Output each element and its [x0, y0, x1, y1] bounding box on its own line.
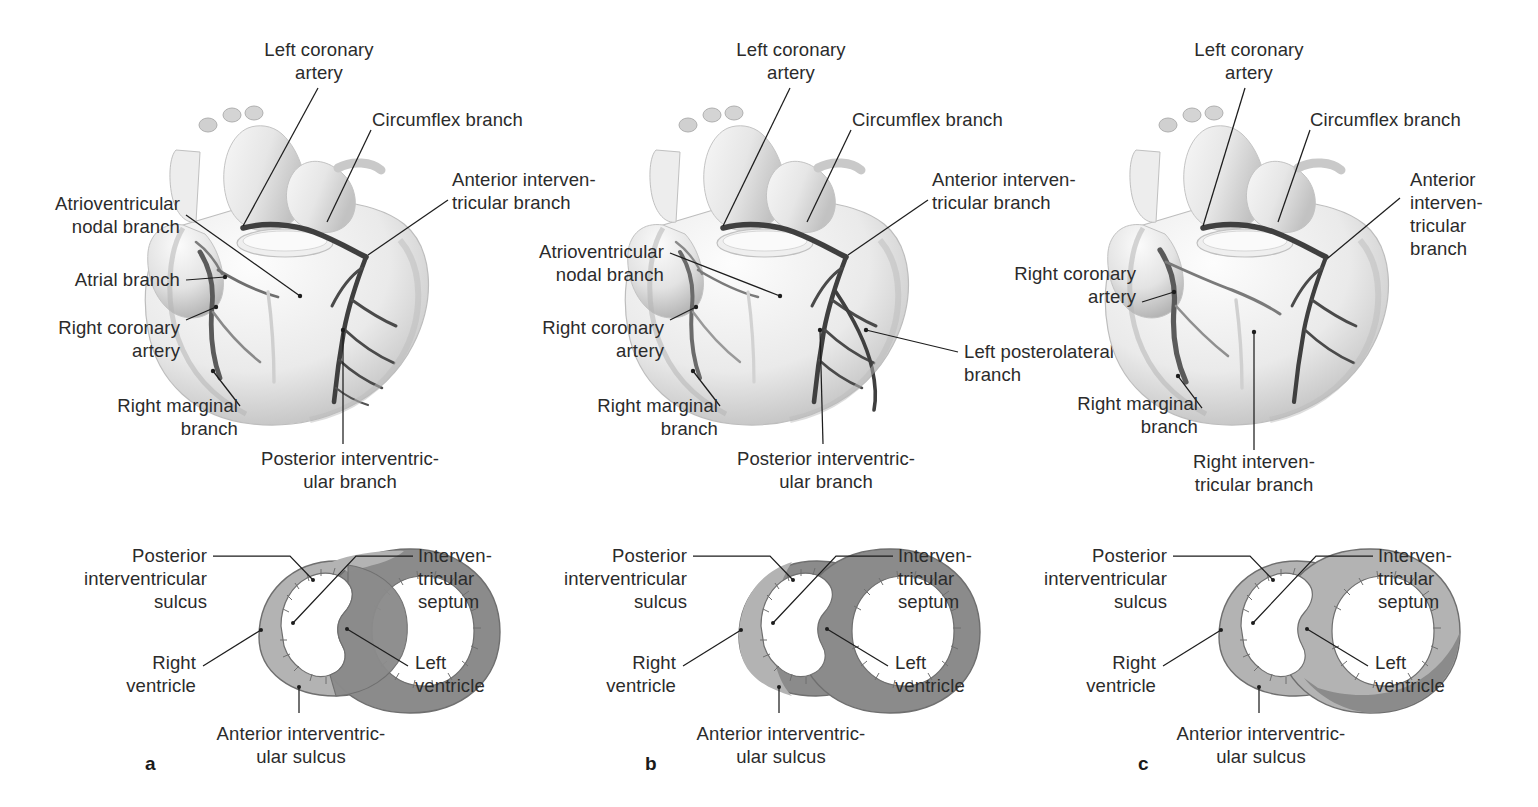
- heart-illustration-b: [625, 106, 908, 425]
- label-posterior-interventricular-sulcus: Posterior interventricular sulcus: [480, 544, 687, 613]
- label-anterior-interventricular-sulcus: Anterior interventric- ular sulcus: [676, 722, 886, 768]
- label-left-ventricle: Left ventricle: [1375, 651, 1505, 697]
- label-right-marginal-branch: Right marginal branch: [510, 394, 718, 440]
- label-right-ventricle: Right ventricle: [990, 651, 1156, 697]
- panel-letter-c: c: [1138, 753, 1149, 775]
- label-posterior-interventricular-sulcus: Posterior interventricular sulcus: [960, 544, 1167, 613]
- label-left-coronary-artery: Left coronary artery: [1178, 38, 1320, 84]
- label-posterior-interventricular-branch: Posterior interventric- ular branch: [720, 447, 932, 493]
- label-right-ventricle: Right ventricle: [510, 651, 676, 697]
- panel-a: Left coronary artery Circumflex branch A…: [0, 0, 512, 807]
- panel-letter-b: b: [645, 753, 657, 775]
- label-atrioventricular-nodal-branch: Atrioventricular nodal branch: [480, 240, 664, 286]
- label-right-coronary-artery: Right coronary artery: [0, 316, 180, 362]
- label-anterior-interventricular-sulcus: Anterior interventric- ular sulcus: [196, 722, 406, 768]
- label-right-marginal-branch: Right marginal branch: [990, 392, 1198, 438]
- heart-illustration-c: [1105, 106, 1388, 425]
- label-circumflex-branch: Circumflex branch: [1310, 108, 1500, 131]
- label-right-ventricle: Right ventricle: [30, 651, 196, 697]
- label-atrial-branch: Atrial branch: [0, 268, 180, 291]
- panel-b: Left coronary artery Circumflex branch A…: [480, 0, 992, 807]
- label-anterior-interventricular-sulcus: Anterior interventric- ular sulcus: [1156, 722, 1366, 768]
- label-left-coronary-artery: Left coronary artery: [248, 38, 390, 84]
- figure-canvas: Left coronary artery Circumflex branch A…: [0, 0, 1538, 807]
- label-right-coronary-artery: Right coronary artery: [480, 316, 664, 362]
- label-right-marginal-branch: Right marginal branch: [30, 394, 238, 440]
- label-posterior-interventricular-sulcus: Posterior interventricular sulcus: [0, 544, 207, 613]
- panel-c: Left coronary artery Circumflex branch A…: [960, 0, 1472, 807]
- label-left-coronary-artery: Left coronary artery: [720, 38, 862, 84]
- label-right-coronary-artery: Right coronary artery: [960, 262, 1136, 308]
- heart-illustration-a: [145, 106, 428, 425]
- label-anterior-interventricular-branch: Anterior interven- tricular branch: [1410, 168, 1530, 260]
- label-atrioventricular-nodal-branch: Atrioventricular nodal branch: [0, 192, 180, 238]
- label-right-interventricular-branch: Right interven- tricular branch: [1152, 450, 1356, 496]
- label-interventricular-septum: Interven- tricular septum: [1378, 544, 1508, 613]
- label-posterior-interventricular-branch: Posterior interventric- ular branch: [244, 447, 456, 493]
- panel-letter-a: a: [145, 753, 156, 775]
